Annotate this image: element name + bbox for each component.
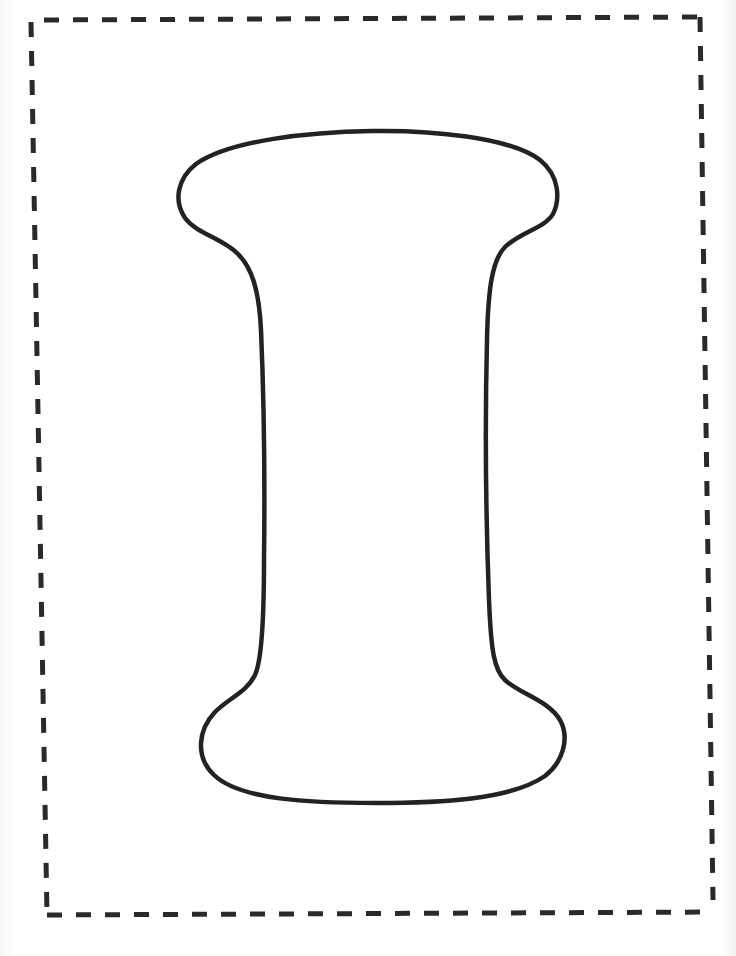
letter-i-outline [178, 131, 564, 803]
coloring-page: I [0, 0, 736, 956]
coloring-page-canvas [0, 0, 736, 956]
